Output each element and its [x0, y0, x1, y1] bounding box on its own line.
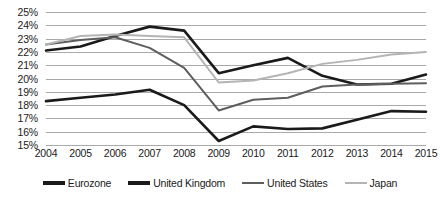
x-tick-label: 2009	[207, 147, 230, 159]
y-tick-label: 23%	[18, 33, 38, 45]
legend-swatch-icon	[345, 182, 367, 184]
legend-label: Eurozone	[68, 177, 111, 189]
x-tick-label: 2006	[104, 147, 127, 159]
y-tick-label: 17%	[18, 112, 38, 124]
legend-item-eurozone[interactable]: Eurozone	[43, 177, 111, 189]
plot-area	[46, 12, 426, 145]
x-tick-label: 2008	[173, 147, 196, 159]
x-tick-label: 2005	[69, 147, 92, 159]
x-tick-label: 2013	[346, 147, 369, 159]
legend-swatch-icon	[128, 181, 150, 184]
legend-label: United States	[267, 177, 327, 189]
chart-legend: EurozoneUnited KingdomUnited StatesJapan	[0, 173, 440, 193]
legend-label: United Kingdom	[153, 177, 225, 189]
y-axis: 15%16%17%18%19%20%21%22%23%24%25%	[0, 12, 42, 145]
series-line-united-kingdom	[46, 90, 426, 141]
y-tick-label: 19%	[18, 86, 38, 98]
y-tick-label: 16%	[18, 126, 38, 138]
x-tick-label: 2011	[277, 147, 299, 159]
series-layer	[46, 12, 426, 145]
x-tick-label: 2004	[35, 147, 58, 159]
legend-item-united-kingdom[interactable]: United Kingdom	[128, 177, 225, 189]
x-tick-label: 2010	[242, 147, 265, 159]
legend-item-japan[interactable]: Japan	[345, 177, 398, 189]
x-axis: 2004200520062007200820092010201120122013…	[46, 147, 426, 163]
series-line-united-states	[46, 37, 426, 110]
y-tick-label: 24%	[18, 19, 38, 31]
legend-item-united-states[interactable]: United States	[242, 177, 327, 189]
gridline	[46, 145, 426, 146]
line-chart: 15%16%17%18%19%20%21%22%23%24%25% 200420…	[0, 0, 440, 200]
series-line-japan	[46, 35, 426, 83]
y-tick-label: 25%	[18, 6, 38, 18]
legend-swatch-icon	[242, 182, 264, 185]
y-tick-label: 20%	[18, 73, 38, 85]
x-tick-label: 2007	[138, 147, 161, 159]
x-tick-label: 2012	[311, 147, 334, 159]
legend-swatch-icon	[43, 181, 65, 184]
legend-label: Japan	[370, 177, 398, 189]
x-tick-label: 2014	[380, 147, 403, 159]
x-tick-label: 2015	[415, 147, 438, 159]
y-tick-label: 21%	[18, 59, 38, 71]
y-tick-label: 18%	[18, 99, 38, 111]
y-tick-label: 22%	[18, 46, 38, 58]
